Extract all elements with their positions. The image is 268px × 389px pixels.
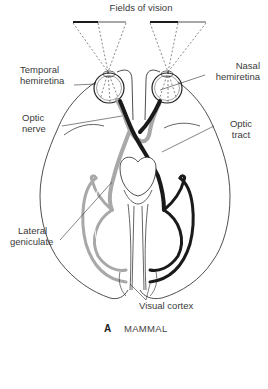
projection-lines [73, 23, 206, 102]
panel-letter: A [104, 323, 111, 334]
fields-of-vision-title: Fields of vision [96, 2, 186, 13]
right-eye [152, 71, 182, 103]
optic-tract-label: Optic tract [224, 118, 258, 140]
nasal-hemiretina-label: Nasal hemiretina [200, 60, 260, 82]
temporal-hemiretina-label: Temporal hemiretina [20, 64, 64, 86]
optic-nerve-label: Optic nerve [22, 112, 46, 134]
panel-caption: MAMMAL [124, 323, 168, 334]
brainstem [124, 190, 152, 290]
left-eye [94, 71, 124, 103]
lateral-geniculate-label: Lateral geniculate [10, 225, 53, 247]
midbrain [120, 157, 156, 196]
visual-cortex-label: Visual cortex [139, 300, 193, 311]
gray-pathway [83, 100, 160, 282]
